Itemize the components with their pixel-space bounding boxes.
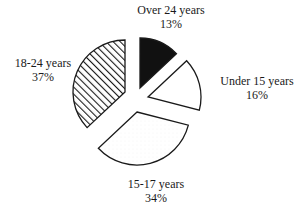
slice-label-under-15-name: Under 15 years: [212, 74, 302, 88]
pie-slice-18-24-years: [73, 40, 125, 128]
slice-label-18-24-name: 18-24 years: [8, 56, 78, 70]
slice-label-18-24-value: 37%: [8, 70, 78, 84]
slice-label-under-15-value: 16%: [212, 88, 302, 102]
slice-label-15-17-name: 15-17 years: [118, 177, 194, 191]
slice-label-over-24: Over 24 years 13%: [136, 3, 206, 31]
slice-label-18-24: 18-24 years 37%: [8, 56, 78, 84]
pie-slice-15-17-years: [98, 112, 188, 165]
slice-label-15-17: 15-17 years 34%: [118, 177, 194, 205]
pie-slices: [73, 38, 201, 165]
slice-label-over-24-value: 13%: [136, 17, 206, 31]
slice-label-over-24-name: Over 24 years: [136, 3, 206, 17]
slice-label-under-15: Under 15 years 16%: [212, 74, 302, 102]
slice-label-15-17-value: 34%: [118, 191, 194, 205]
